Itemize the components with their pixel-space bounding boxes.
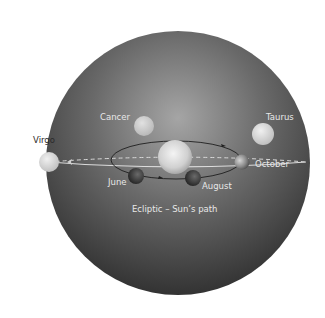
cancer-star — [134, 116, 154, 136]
sun — [158, 140, 192, 174]
earth-october — [235, 155, 250, 170]
label-cancer: Cancer — [100, 112, 130, 122]
taurus-star — [252, 123, 274, 145]
label-virgo: Virgo — [33, 135, 55, 145]
celestial-sphere-diagram: Virgo Cancer Taurus October June August … — [0, 0, 325, 318]
earth-june — [128, 168, 144, 184]
label-october: October — [255, 159, 290, 169]
virgo-star — [39, 152, 59, 172]
earth-august — [185, 170, 201, 186]
label-august: August — [202, 181, 232, 191]
label-ecliptic: Ecliptic – Sun’s path — [132, 204, 218, 214]
label-taurus: Taurus — [265, 112, 294, 122]
label-june: June — [107, 177, 127, 187]
